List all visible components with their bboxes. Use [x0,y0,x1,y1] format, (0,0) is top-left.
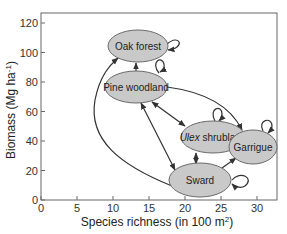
x-tick-label: 0 [38,202,44,214]
node-label: Oak forest [115,41,161,52]
x-tick-label: 25 [215,202,227,214]
y-axis-title: Biomass (Mg ha-1) [4,61,18,159]
edge-pine-ulex [152,102,185,126]
x-tick-label: 10 [107,202,119,214]
x-tick-label: 20 [179,202,191,214]
x-axis: 0 5 10 15 20 25 30 [38,196,263,214]
transition-edges [94,40,272,187]
y-tick-label: 60 [26,106,38,118]
node-garrigue: Garrigue [229,130,277,164]
node-oak-forest: Oak forest [108,30,168,62]
y-tick-label: 120 [20,17,38,29]
node-sward: Sward [169,163,231,197]
self-loop-pine [156,60,165,73]
y-tick-label: 80 [26,76,38,88]
self-loop-ulex [213,108,222,121]
y-tick-label: 20 [26,165,38,177]
node-label: Pine woodland [103,82,169,93]
node-label: Garrigue [234,142,273,153]
x-tick-label: 5 [74,202,80,214]
x-tick-label: 30 [251,202,263,214]
node-label: Sward [186,175,214,186]
y-tick-label: 40 [26,135,38,147]
x-tick-label: 15 [143,202,155,214]
state-transition-chart: 0 20 40 60 80 100 120 0 5 10 15 20 25 30… [0,0,287,234]
x-axis-title: Species richness (in 100 m2) [81,215,234,229]
edge-sward-to-garrigue [222,158,236,168]
edge-pine-sward [141,103,175,170]
y-tick-label: 100 [20,47,38,59]
node-pine-woodland: Pine woodland [103,71,169,103]
self-loop-oak [167,40,179,50]
self-loop-sward [232,175,248,187]
